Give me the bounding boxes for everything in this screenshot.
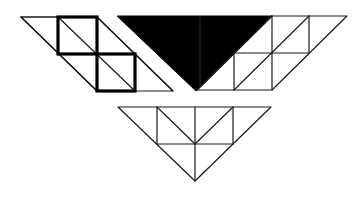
diagram-canvas (0, 0, 360, 198)
bottom-triangle (118, 107, 271, 181)
